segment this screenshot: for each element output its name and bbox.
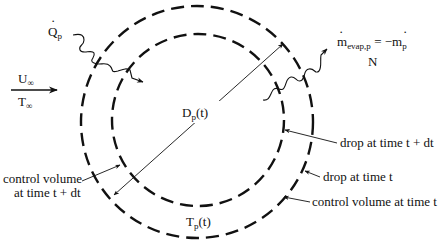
cv-t-label: control volume at time t	[312, 194, 437, 209]
svg-text:N: N	[368, 54, 378, 69]
leader-drop-t	[305, 171, 320, 177]
svg-text:·: ·	[403, 24, 407, 39]
cv-t-dt-label-line2: at time t + dt	[14, 185, 81, 200]
drop-t-label: drop at time t	[323, 169, 393, 184]
svg-text:Dp(t): Dp(t)	[182, 105, 208, 122]
droplet-diagram: Qp · U∞ T∞ mevap,p = −mp · · N Dp(t) Tp(…	[0, 0, 439, 242]
svg-text:U∞: U∞	[18, 71, 34, 88]
svg-text:·: ·	[51, 13, 55, 28]
leader-cv-t	[284, 197, 310, 202]
heat-flux-label: Qp ·	[48, 13, 62, 41]
svg-text:mevap,p = −mp: mevap,p = −mp	[337, 34, 407, 51]
diameter-label: Dp(t)	[182, 105, 208, 122]
freestream-velocity-label: U∞	[18, 71, 34, 88]
svg-text:T∞: T∞	[18, 94, 32, 111]
heat-flux-wavy-arrow	[73, 34, 143, 82]
leader-drop-t-dt	[285, 130, 337, 143]
svg-text:Tp(t): Tp(t)	[186, 214, 211, 231]
evaporation-wavy-arrow	[263, 49, 327, 100]
drop-t-dt-label: drop at time t + dt	[340, 135, 434, 150]
evaporation-rate-label: mevap,p = −mp · · N	[337, 24, 407, 69]
freestream-temperature-label: T∞	[18, 94, 32, 111]
cv-t-dt-label-line1: control volume	[3, 171, 82, 186]
temperature-label: Tp(t)	[186, 214, 211, 231]
leader-cv-t-dt	[82, 165, 120, 181]
svg-text:·: ·	[339, 24, 343, 39]
